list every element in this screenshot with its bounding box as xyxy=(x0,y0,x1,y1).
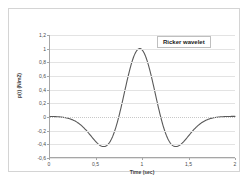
y-axis-tick-label: 0,8 xyxy=(39,60,46,65)
x-axis-tick-label: 0 xyxy=(48,162,51,167)
gridline xyxy=(50,49,235,50)
chart-annotation-label: Ricker wavelet xyxy=(157,36,211,48)
x-axis-tick-label: 1,5 xyxy=(185,162,192,167)
y-axis-tick-label: 0 xyxy=(43,115,46,120)
x-axis-tick-label: 2 xyxy=(234,162,237,167)
x-axis-tick-mark xyxy=(142,158,143,160)
x-axis-tick-mark xyxy=(96,158,97,160)
gridline xyxy=(50,131,235,132)
y-axis-tick-label: 0,2 xyxy=(39,101,46,106)
x-axis-tick-mark xyxy=(235,158,236,160)
x-axis-tick-mark xyxy=(189,158,190,160)
x-axis-tick-label: 0,5 xyxy=(92,162,99,167)
x-axis-title: Time (sec) xyxy=(49,170,235,175)
y-axis-tick-labels: 1,210,80,60,40,20-0,2-0,4-0,6 xyxy=(23,35,46,158)
y-axis-tick-label: 1,2 xyxy=(39,33,46,38)
y-axis-title: p(t) (N/m2) xyxy=(17,58,22,114)
y-axis-tick-label: 1 xyxy=(43,46,46,51)
y-axis-tick-label: 0,6 xyxy=(39,74,46,79)
gridline xyxy=(50,90,235,91)
x-axis-tick-label: 1 xyxy=(141,162,144,167)
gridline xyxy=(50,76,235,77)
gridline xyxy=(50,103,235,104)
y-axis-tick-label: -0,4 xyxy=(37,142,46,147)
gridline xyxy=(50,62,235,63)
x-axis-tick-labels: 00,511,52 xyxy=(49,161,235,169)
ricker-wavelet-curve xyxy=(50,35,235,157)
y-axis-tick-label: -0,2 xyxy=(37,128,46,133)
x-axis-tick-mark xyxy=(49,158,50,160)
y-axis-tick-label: -0,6 xyxy=(37,156,46,161)
chart-frame: 1,210,80,60,40,20-0,2-0,4-0,6 00,511,52 … xyxy=(8,8,240,172)
zero-line xyxy=(50,117,235,118)
gridline xyxy=(50,144,235,145)
y-axis-tick-label: 0,4 xyxy=(39,87,46,92)
plot-area xyxy=(49,35,235,158)
